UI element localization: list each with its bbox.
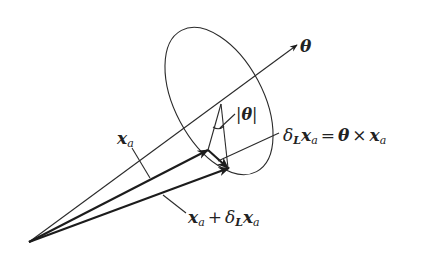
rotated-vector-label: xa+δLxa (187, 207, 260, 229)
rotation-ellipse (143, 10, 296, 193)
rotation-diagram: θ |θ| xa δLxa=θ×xa xa+δLxa (0, 0, 422, 257)
cone-line-1 (208, 104, 221, 150)
theta-label: θ (300, 36, 312, 56)
leader-x-a (132, 148, 150, 178)
vector-x-a (29, 150, 208, 242)
variation-equation: δLxa=θ×xa (283, 125, 386, 147)
x-a-label: xa (116, 128, 134, 150)
vector-x-a-plus-delta (29, 168, 229, 242)
leader-x-a-plus-delta (163, 195, 186, 213)
angle-label: |θ| (236, 105, 257, 124)
